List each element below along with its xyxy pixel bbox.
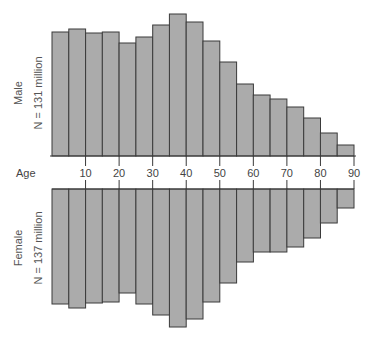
- tick-label: 90: [348, 167, 360, 179]
- female-bars: [52, 189, 354, 327]
- male-bar-70-75: [287, 107, 304, 156]
- male-bar-45-50: [203, 41, 220, 156]
- male-bar-50-55: [220, 62, 237, 156]
- male-bar-20-25: [119, 43, 136, 156]
- male-bar-5-10: [69, 29, 86, 156]
- male-bar-35-40: [169, 14, 186, 156]
- male-bar-85-90: [337, 145, 354, 156]
- female-bar-45-50: [203, 189, 220, 302]
- female-bar-10-15: [86, 189, 103, 303]
- tick-label: 30: [147, 167, 159, 179]
- female-bar-35-40: [169, 189, 186, 327]
- female-bar-60-65: [253, 189, 270, 252]
- population-pyramid-chart: 102030405060708090 Age Male N = 131 mill…: [0, 0, 372, 342]
- male-bar-80-85: [320, 133, 337, 156]
- male-bars: [52, 14, 354, 156]
- female-bar-30-35: [153, 189, 170, 315]
- female-bar-70-75: [287, 189, 304, 247]
- tick-label: 70: [281, 167, 293, 179]
- male-bar-10-15: [86, 33, 103, 156]
- female-bar-65-70: [270, 189, 287, 252]
- tick-label: 50: [214, 167, 226, 179]
- female-panel-title: Female: [12, 230, 24, 267]
- female-bar-0-5: [52, 189, 69, 304]
- male-bar-15-20: [102, 32, 119, 156]
- female-bar-5-10: [69, 189, 86, 308]
- tick-label: 40: [180, 167, 192, 179]
- female-bar-50-55: [220, 189, 237, 283]
- male-bar-30-35: [153, 25, 170, 156]
- female-bar-15-20: [102, 189, 119, 302]
- male-bar-55-60: [237, 84, 254, 156]
- female-count-label: N = 137 million: [32, 211, 44, 284]
- tick-label: 80: [314, 167, 326, 179]
- male-panel-title: Male: [12, 81, 24, 105]
- male-bar-60-65: [253, 95, 270, 156]
- female-bar-85-90: [337, 189, 354, 208]
- female-bar-40-45: [186, 189, 203, 319]
- female-bar-55-60: [237, 189, 254, 262]
- female-bar-80-85: [320, 189, 337, 223]
- age-axis-ticks: 102030405060708090: [78, 156, 362, 189]
- male-bar-75-80: [304, 118, 321, 156]
- female-bar-25-30: [136, 189, 153, 304]
- tick-label: 20: [113, 167, 125, 179]
- male-bar-0-5: [52, 32, 69, 156]
- male-bar-65-70: [270, 99, 287, 156]
- male-count-label: N = 131 million: [32, 56, 44, 129]
- tick-label: 60: [247, 167, 259, 179]
- female-bar-75-80: [304, 189, 321, 238]
- male-bar-25-30: [136, 37, 153, 156]
- age-axis-label: Age: [16, 167, 36, 179]
- tick-label: 10: [79, 167, 91, 179]
- female-bar-20-25: [119, 189, 136, 293]
- male-bar-40-45: [186, 22, 203, 156]
